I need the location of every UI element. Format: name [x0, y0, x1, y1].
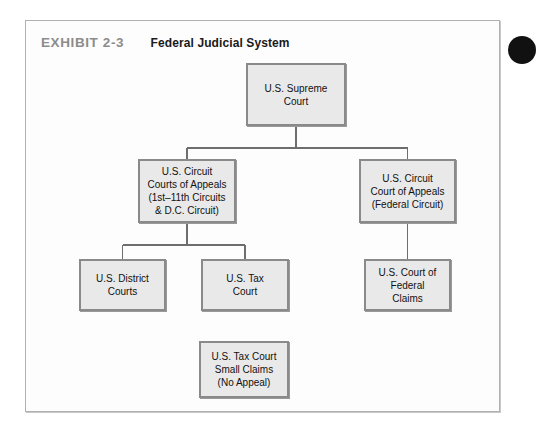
- exhibit-panel: EXHIBIT 2-3 Federal Judicial System: [25, 20, 500, 412]
- node-circuit-court-of-appeals-federal-label: U.S. Circuit Court of Appeals (Federal C…: [369, 172, 447, 211]
- node-tax-court-small-claims[interactable]: U.S. Tax Court Small Claims (No Appeal): [199, 341, 289, 398]
- corner-circle-decoration: [508, 36, 536, 64]
- node-supreme-court-label: U.S. Supreme Court: [263, 82, 330, 108]
- node-tax-court-label: U.S. Tax Court: [224, 272, 266, 298]
- node-circuit-courts-of-appeals-label: U.S. Circuit Courts of Appeals (1st–11th…: [146, 165, 229, 217]
- node-court-of-federal-claims[interactable]: U.S. Court of Federal Claims: [364, 259, 451, 311]
- node-supreme-court[interactable]: U.S. Supreme Court: [246, 63, 346, 126]
- node-tax-court[interactable]: U.S. Tax Court: [201, 259, 289, 311]
- node-district-courts[interactable]: U.S. District Courts: [79, 259, 166, 311]
- node-circuit-courts-of-appeals[interactable]: U.S. Circuit Courts of Appeals (1st–11th…: [138, 159, 236, 223]
- node-tax-court-small-claims-label: U.S. Tax Court Small Claims (No Appeal): [210, 350, 279, 389]
- federal-judicial-system-diagram: U.S. Supreme Court U.S. Circuit Courts o…: [26, 21, 499, 411]
- node-district-courts-label: U.S. District Courts: [94, 272, 151, 298]
- node-circuit-court-of-appeals-federal[interactable]: U.S. Circuit Court of Appeals (Federal C…: [359, 159, 456, 223]
- node-court-of-federal-claims-label: U.S. Court of Federal Claims: [377, 266, 439, 305]
- cut-off-page-text: ······································: [6, 0, 306, 5]
